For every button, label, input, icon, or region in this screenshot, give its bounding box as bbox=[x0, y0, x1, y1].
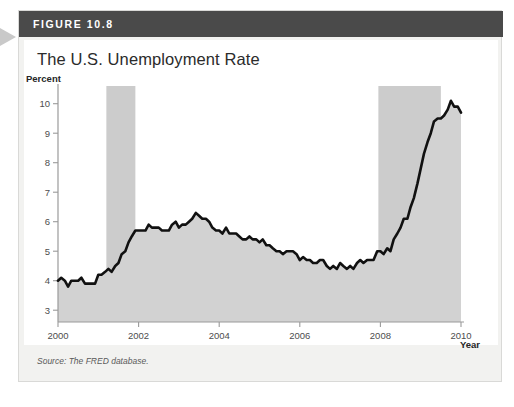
source-note: Source: The FRED database. bbox=[37, 356, 149, 366]
figure-number-label: FIGURE 10.8 bbox=[33, 18, 114, 30]
figure-panel: The U.S. Unemployment Rate bbox=[24, 40, 498, 345]
figure-box: FIGURE 10.8 The U.S. Unemployment Rate S… bbox=[18, 10, 502, 382]
page-edge-arrow-icon bbox=[0, 28, 16, 46]
figure-header-bar: FIGURE 10.8 bbox=[19, 11, 503, 37]
figure-title: The U.S. Unemployment Rate bbox=[37, 50, 260, 69]
